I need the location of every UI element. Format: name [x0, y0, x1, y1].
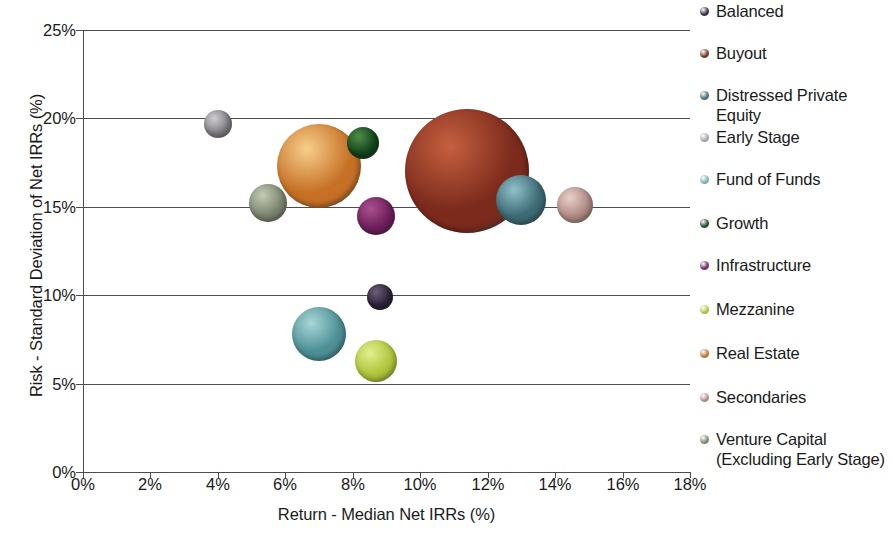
y-axis-tick-label: 10% [20, 287, 76, 304]
legend-label: Balanced [716, 2, 784, 22]
gridline-horizontal [83, 118, 690, 119]
legend-item-real-estate[interactable]: Real Estate [700, 344, 893, 364]
gridline-horizontal [83, 384, 690, 385]
legend-item-fund-of-funds[interactable]: Fund of Funds [700, 170, 893, 190]
x-axis-tick-label: 12% [458, 476, 518, 493]
x-axis-tick-mark [285, 472, 286, 478]
x-axis-tick-mark [83, 472, 84, 478]
bubble-distressed-private-equity[interactable] [496, 175, 546, 225]
x-axis-line [83, 472, 691, 473]
y-axis-tick-labels: 0%5%10%15%20%25% [14, 0, 76, 539]
x-axis-tick-label: 6% [255, 476, 315, 493]
y-axis-tick-label: 5% [20, 376, 76, 393]
x-axis-tick-mark [488, 472, 489, 478]
legend-marker-venture-capital-excluding-early-stage [700, 435, 709, 444]
legend-item-venture-capital-excluding-early-stage[interactable]: Venture Capital (Excluding Early Stage) [700, 430, 893, 469]
x-axis-tick-label: 4% [188, 476, 248, 493]
legend-item-infrastructure[interactable]: Infrastructure [700, 256, 893, 276]
x-axis-tick-mark [555, 472, 556, 478]
legend-label: Secondaries [716, 388, 806, 408]
x-axis-tick-mark [690, 472, 691, 478]
legend-label: Fund of Funds [716, 170, 820, 190]
y-axis-tick-mark [76, 472, 83, 473]
legend-label: Venture Capital (Excluding Early Stage) [716, 430, 893, 469]
plot-area [83, 30, 690, 472]
x-axis-tick-mark [150, 472, 151, 478]
x-axis-tick-mark [218, 472, 219, 478]
legend-item-secondaries[interactable]: Secondaries [700, 388, 893, 408]
x-axis-tick-label: 0% [53, 476, 113, 493]
legend-item-balanced[interactable]: Balanced [700, 2, 893, 22]
legend-label: Growth [716, 214, 768, 234]
x-axis-title: Return - Median Net IRRs (%) [83, 505, 690, 524]
legend-marker-buyout [700, 49, 709, 58]
bubble-early-stage[interactable] [204, 110, 232, 138]
y-axis-tick-mark [76, 118, 83, 119]
legend-marker-infrastructure [700, 261, 709, 270]
bubble-fund-of-funds[interactable] [292, 307, 346, 361]
legend-marker-early-stage [700, 133, 709, 142]
legend-label: Real Estate [716, 344, 800, 364]
y-axis-tick-label: 20% [20, 110, 76, 127]
legend-item-mezzanine[interactable]: Mezzanine [700, 300, 893, 320]
x-axis-tick-label: 14% [525, 476, 585, 493]
x-axis-tick-label: 8% [323, 476, 383, 493]
bubble-chart: Risk - Standard Deviation of Net IRRs (%… [0, 0, 893, 539]
legend-marker-fund-of-funds [700, 175, 709, 184]
legend-item-growth[interactable]: Growth [700, 214, 893, 234]
legend-marker-balanced [700, 7, 709, 16]
legend-marker-secondaries [700, 393, 709, 402]
legend-item-buyout[interactable]: Buyout [700, 44, 893, 64]
bubble-balanced[interactable] [367, 284, 393, 310]
bubble-growth[interactable] [347, 127, 379, 159]
legend: BalancedBuyoutDistressed Private EquityE… [700, 0, 893, 539]
legend-label: Buyout [716, 44, 766, 64]
legend-marker-distressed-private-equity [700, 91, 709, 100]
x-axis-tick-mark [353, 472, 354, 478]
bubble-venture-capital-excluding-early-stage[interactable] [249, 184, 287, 222]
legend-marker-growth [700, 219, 709, 228]
legend-label: Early Stage [716, 128, 800, 148]
y-axis-tick-mark [76, 207, 83, 208]
legend-label: Distressed Private Equity [716, 86, 893, 125]
legend-marker-real-estate [700, 349, 709, 358]
y-axis-tick-label: 15% [20, 199, 76, 216]
y-axis-tick-mark [76, 30, 83, 31]
legend-label: Infrastructure [716, 256, 811, 276]
bubble-secondaries[interactable] [557, 187, 593, 223]
bubble-infrastructure[interactable] [357, 197, 395, 235]
x-axis-tick-mark [623, 472, 624, 478]
legend-item-distressed-private-equity[interactable]: Distressed Private Equity [700, 86, 893, 125]
gridline-horizontal [83, 30, 690, 31]
legend-item-early-stage[interactable]: Early Stage [700, 128, 893, 148]
x-axis-tick-label: 10% [390, 476, 450, 493]
y-axis-tick-mark [76, 384, 83, 385]
bubble-mezzanine[interactable] [355, 340, 397, 382]
legend-label: Mezzanine [716, 300, 794, 320]
y-axis-tick-mark [76, 295, 83, 296]
legend-marker-mezzanine [700, 305, 709, 314]
x-axis-tick-label: 2% [120, 476, 180, 493]
y-axis-tick-label: 25% [20, 22, 76, 39]
x-axis-tick-mark [420, 472, 421, 478]
x-axis-tick-label: 16% [593, 476, 653, 493]
